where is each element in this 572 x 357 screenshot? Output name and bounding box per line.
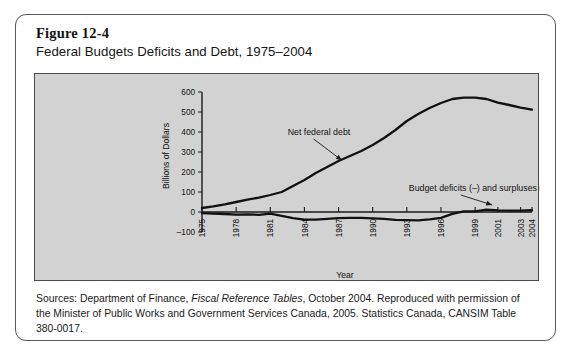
chart-axis-titles: Billions of DollarsYear [161,123,354,280]
x-tick-label: 1978 [232,219,241,238]
chart-annotation-label: Net federal debt [288,127,351,137]
y-tick-label: 0 [190,208,195,217]
y-tick-label: 300 [181,148,195,157]
y-tick-label: 400 [181,128,195,137]
source-italic-title: Fiscal Reference Tables [191,293,302,304]
y-axis-title: Billions of Dollars [161,123,171,189]
y-tick-label: 100 [181,188,195,197]
figure-card: Figure 12-4 Federal Budgets Deficits and… [15,14,556,341]
y-tick-label: –100 [177,228,196,237]
x-tick-label: 2001 [494,219,503,238]
x-axis-title: Year [336,270,354,280]
series-line [202,210,532,221]
x-tick-label: 2004 [528,219,537,238]
chart-annotation-label: Budget deficits (–) and surpluses (+) [409,183,540,193]
x-tick-label: 1975 [198,219,207,238]
x-tick-label: 1981 [266,219,275,238]
x-tick-label: 1996 [437,219,446,238]
y-tick-label: 200 [181,168,195,177]
source-note: Sources: Department of Finance, Fiscal R… [36,291,536,337]
source-prefix: Sources: Department of Finance, [36,293,191,304]
chart-plot-panel: –100010020030040050060019751978198119841… [34,73,539,281]
y-tick-label: 500 [181,108,195,117]
x-tick-label: 1999 [471,219,480,238]
y-tick-label: 600 [181,88,195,97]
x-tick-label: 1984 [301,219,310,238]
annotation-arrowhead [336,155,342,161]
chart-annotations: Net federal debtBudget deficits (–) and … [288,127,540,206]
figure-number: Figure 12-4 [36,25,516,42]
line-chart: –100010020030040050060019751978198119841… [35,74,540,282]
x-tick-label: 2003 [517,219,526,238]
annotation-arrowhead [486,201,492,206]
figure-title: Federal Budgets Deficits and Debt, 1975–… [36,43,516,60]
figure-header: Figure 12-4 Federal Budgets Deficits and… [36,25,516,60]
x-tick-label: 1990 [369,219,378,238]
x-tick-label: 1987 [335,219,344,238]
